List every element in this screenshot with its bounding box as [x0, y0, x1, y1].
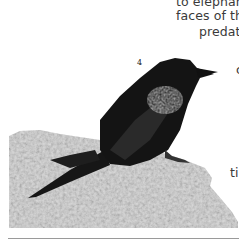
body-text-line: faces of the [176, 8, 239, 23]
body-text-fragment: ti [230, 165, 239, 180]
body-text-line: predato [199, 24, 239, 39]
body-text-fragment: c [236, 62, 239, 77]
figure-number: 4 [137, 58, 142, 67]
horizontal-rule [8, 238, 239, 239]
bird-breast [147, 86, 183, 114]
